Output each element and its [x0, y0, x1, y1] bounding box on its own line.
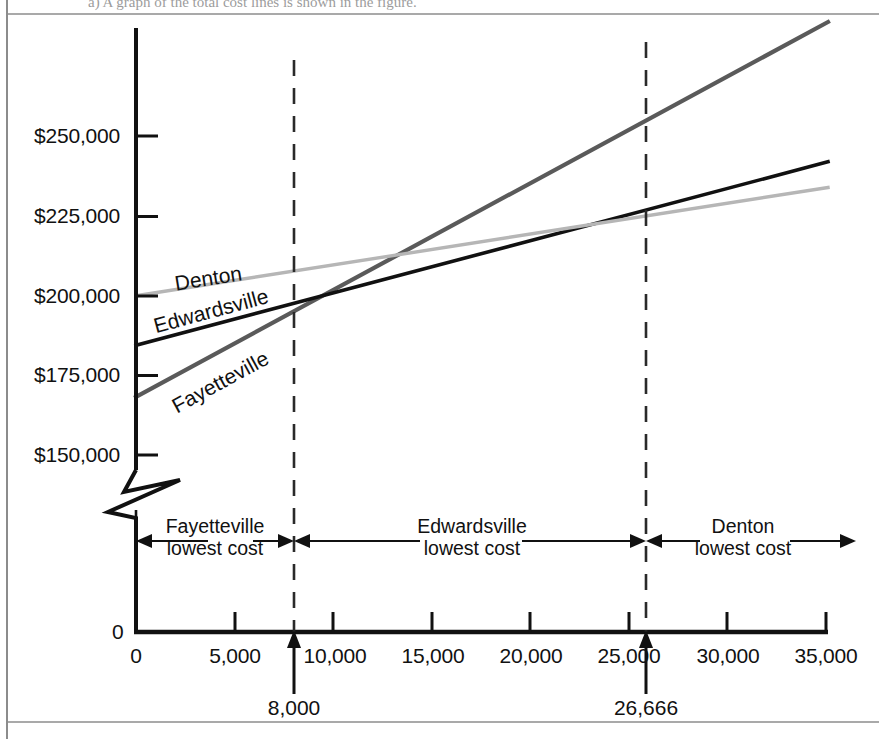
- cost-comparison-chart: [0, 0, 879, 739]
- y-tick-label-225000: $225,000: [18, 204, 120, 228]
- region-label-denton-line2: lowest cost: [695, 537, 791, 559]
- region-label-fayetteville: Fayetteville lowest cost: [155, 516, 275, 560]
- region-label-fayetteville-line2: lowest cost: [167, 537, 263, 559]
- region-label-edwardsville-line2: lowest cost: [424, 537, 520, 559]
- x-axis-ticks: [235, 612, 826, 632]
- y-tick-label-200000: $200,000: [18, 284, 120, 308]
- y-axis-origin-label: 0: [112, 620, 124, 644]
- series-line-edwardsville: [136, 162, 828, 345]
- x-tick-label-0: 0: [96, 644, 176, 668]
- breakeven-label-8000: 8,000: [234, 696, 354, 720]
- y-axis-ticks: [136, 136, 158, 455]
- breakeven-label-26666: 26,666: [580, 696, 712, 720]
- x-tick-label-35000: 35,000: [767, 644, 879, 668]
- x-tick-label-5000: 5,000: [180, 644, 290, 668]
- region-label-edwardsville-line1: Edwardsville: [417, 515, 526, 537]
- y-tick-label-150000: $150,000: [18, 443, 120, 467]
- y-tick-label-175000: $175,000: [18, 363, 120, 387]
- region-label-fayetteville-line1: Fayetteville: [166, 515, 265, 537]
- series-line-fayetteville: [136, 22, 828, 397]
- region-label-edwardsville: Edwardsville lowest cost: [410, 516, 534, 560]
- figure-container: a) A graph of the total cost lines is sh…: [0, 0, 879, 739]
- region-label-denton-line1: Denton: [712, 515, 775, 537]
- y-tick-label-250000: $250,000: [18, 124, 120, 148]
- region-label-denton: Denton lowest cost: [690, 516, 796, 560]
